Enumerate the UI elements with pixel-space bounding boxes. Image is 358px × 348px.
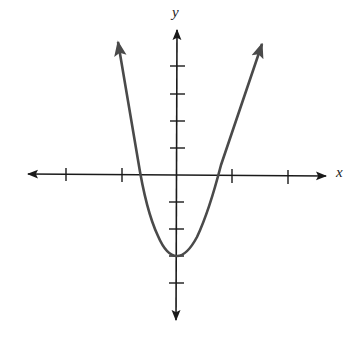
parabola-curve: [118, 42, 262, 256]
y-axis: [176, 30, 177, 320]
parabola-graph: [0, 0, 358, 348]
y-axis-label: y: [172, 4, 179, 21]
x-axis-label: x: [336, 164, 343, 181]
